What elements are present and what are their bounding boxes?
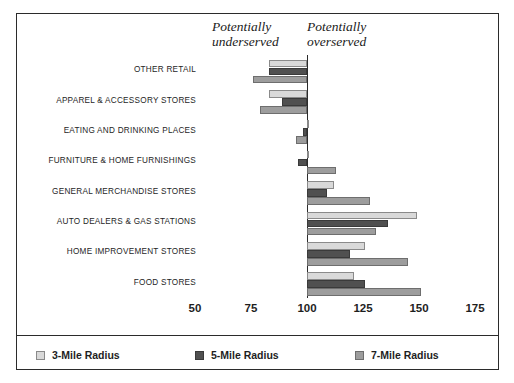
chart-container: Potentially underserved Potentially over…	[0, 0, 514, 383]
bar[interactable]	[307, 250, 350, 258]
plot-area: OTHER RETAILAPPAREL & ACCESSORY STORESEA…	[16, 55, 499, 298]
chart-legend: 3-Mile Radius5-Mile Radius7-Mile Radius	[17, 342, 498, 368]
bar[interactable]	[307, 167, 336, 175]
x-tick-label: 175	[465, 302, 484, 314]
bar[interactable]	[269, 68, 307, 76]
category-label: HOME IMPROVEMENT STORES	[67, 247, 196, 256]
bar-group: OTHER RETAIL	[16, 55, 499, 85]
bar-group: FOOD STORES	[16, 268, 499, 298]
legend-item[interactable]: 5-Mile Radius	[195, 342, 279, 368]
bar[interactable]	[307, 189, 327, 197]
bar[interactable]	[307, 220, 388, 228]
bar-group: AUTO DEALERS & GAS STATIONS	[16, 207, 499, 237]
category-label: APPAREL & ACCESSORY STORES	[56, 96, 196, 105]
bar[interactable]	[269, 60, 307, 68]
bar-group: GENERAL MERCHANDISE STORES	[16, 177, 499, 207]
x-tick-label: 50	[189, 302, 202, 314]
bar[interactable]	[260, 106, 307, 114]
bar-group: HOME IMPROVEMENT STORES	[16, 237, 499, 267]
bar[interactable]	[269, 90, 307, 98]
category-label: FURNITURE & HOME FURNISHINGS	[48, 156, 196, 165]
bar[interactable]	[307, 151, 309, 159]
bar[interactable]	[303, 128, 307, 136]
category-label: FOOD STORES	[134, 278, 196, 287]
annotation-potentially-underserved: Potentially underserved	[212, 19, 279, 49]
legend-item[interactable]: 7-Mile Radius	[355, 342, 439, 368]
bar[interactable]	[307, 181, 334, 189]
bar[interactable]	[307, 212, 417, 220]
legend-label: 7-Mile Radius	[371, 349, 439, 361]
x-tick-label: 150	[409, 302, 428, 314]
x-tick-label: 100	[297, 302, 316, 314]
legend-swatch-icon	[36, 351, 45, 360]
legend-divider	[17, 335, 498, 336]
legend-label: 3-Mile Radius	[52, 349, 120, 361]
bar-group: EATING AND DRINKING PLACES	[16, 116, 499, 146]
bar[interactable]	[282, 98, 307, 106]
bar-group: APPAREL & ACCESSORY STORES	[16, 85, 499, 115]
x-axis-ticks: 5075100125150175	[16, 302, 499, 320]
bar[interactable]	[307, 242, 365, 250]
category-label: EATING AND DRINKING PLACES	[64, 126, 196, 135]
bar[interactable]	[307, 288, 421, 296]
legend-swatch-icon	[195, 351, 204, 360]
bar[interactable]	[307, 258, 408, 266]
x-tick-label: 75	[245, 302, 258, 314]
legend-item[interactable]: 3-Mile Radius	[36, 342, 120, 368]
x-tick-label: 125	[353, 302, 372, 314]
category-label: GENERAL MERCHANDISE STORES	[52, 187, 196, 196]
bar[interactable]	[253, 76, 307, 84]
bar[interactable]	[307, 280, 365, 288]
annotation-potentially-overserved: Potentially overserved	[307, 19, 366, 49]
bar[interactable]	[307, 120, 309, 128]
bar-group: FURNITURE & HOME FURNISHINGS	[16, 146, 499, 176]
legend-label: 5-Mile Radius	[211, 349, 279, 361]
legend-swatch-icon	[355, 351, 364, 360]
bar[interactable]	[296, 136, 307, 144]
bar[interactable]	[307, 228, 376, 236]
bar[interactable]	[307, 197, 370, 205]
bar[interactable]	[298, 159, 307, 167]
category-label: OTHER RETAIL	[134, 65, 196, 74]
category-label: AUTO DEALERS & GAS STATIONS	[57, 217, 196, 226]
bar[interactable]	[307, 272, 354, 280]
